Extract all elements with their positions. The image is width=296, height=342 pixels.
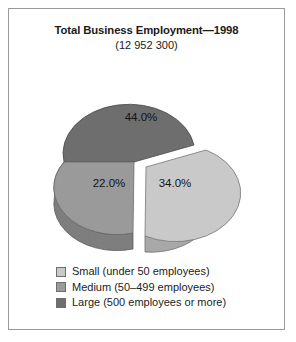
pie-chart: 44.0% 22.0% 34.0%	[9, 71, 285, 257]
chart-subtitle: (12 952 300)	[9, 38, 284, 52]
pie-slice-small	[145, 150, 241, 242]
page-title: Total Business Employment—1998	[9, 23, 284, 37]
legend-item-small: Small (under 50 employees)	[56, 264, 266, 280]
pie-label-small: 34.0%	[159, 177, 192, 189]
pie-label-medium: 22.0%	[93, 177, 126, 189]
figure-frame: Total Business Employment—1998 (12 952 3…	[8, 8, 285, 330]
legend-label-medium: Medium (50–499 employees)	[72, 281, 214, 294]
legend-item-medium: Medium (50–499 employees)	[56, 280, 266, 296]
pie-label-large: 44.0%	[125, 111, 158, 123]
legend-label-small: Small (under 50 employees)	[72, 265, 210, 278]
pie-chart-svg: 44.0% 22.0% 34.0%	[9, 71, 285, 257]
title-block: Total Business Employment—1998 (12 952 3…	[9, 23, 284, 52]
legend: Small (under 50 employees) Medium (50–49…	[56, 264, 266, 311]
legend-label-large: Large (500 employees or more)	[72, 296, 226, 309]
legend-item-large: Large (500 employees or more)	[56, 295, 266, 311]
legend-swatch-medium	[56, 282, 66, 292]
legend-swatch-large	[56, 298, 66, 308]
legend-swatch-small	[56, 267, 66, 277]
